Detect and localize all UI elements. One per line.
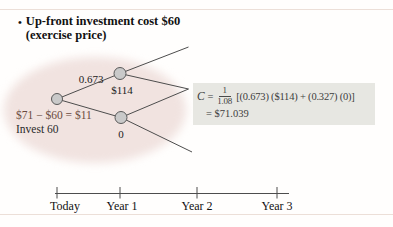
formula-line-1: C = 1 1.08 [(0.673) ($114) + (0.327) (0)… xyxy=(197,85,355,107)
root-node xyxy=(52,94,63,105)
probability-up-label: 0.673 xyxy=(79,73,104,85)
formula-expression: [(0.673) ($114) + (0.327) (0)] xyxy=(236,91,355,102)
timeline-label-year1: Year 1 xyxy=(106,199,137,214)
slide: • Up-front investment cost $60 (exercise… xyxy=(0,0,393,227)
timeline-label-year3: Year 3 xyxy=(261,199,292,214)
fraction-numerator: 1 xyxy=(219,86,231,97)
timeline-label-today: Today xyxy=(50,199,80,214)
option-value-formula-box: C = 1 1.08 [(0.673) ($114) + (0.327) (0)… xyxy=(193,83,375,125)
down-node-value: 0 xyxy=(118,128,124,140)
invest-text: Invest 60 xyxy=(16,123,58,135)
fraction-denominator: 1.08 xyxy=(216,97,233,107)
formula-equals: = xyxy=(207,91,213,102)
formula-result: = $71.039 xyxy=(206,108,249,119)
up-node-value: $114 xyxy=(111,84,133,96)
discount-fraction: 1 1.08 xyxy=(216,86,233,106)
up-state-node xyxy=(114,68,126,80)
timeline-label-year2: Year 2 xyxy=(181,199,212,214)
npv-text: $71 − $60 = $11 xyxy=(16,109,92,121)
down-state-node xyxy=(115,112,127,124)
branch-up-to-upper-right xyxy=(120,47,189,74)
branch-down-to-lower-right xyxy=(121,118,192,153)
formula-lhs: C xyxy=(197,90,204,102)
